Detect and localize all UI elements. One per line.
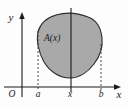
- region-area-label: A(x): [43, 33, 60, 44]
- tick-label-a: a: [36, 89, 41, 99]
- tick-label-b: b: [99, 89, 104, 99]
- origin-label: O: [9, 89, 16, 99]
- y-axis-label: y: [8, 11, 14, 23]
- tick-label-x: x: [67, 89, 73, 99]
- figure-canvas: y x O a x b A(x): [0, 0, 128, 106]
- cross-section-figure: y x O a x b A(x): [0, 0, 128, 106]
- x-axis-label: x: [116, 88, 122, 100]
